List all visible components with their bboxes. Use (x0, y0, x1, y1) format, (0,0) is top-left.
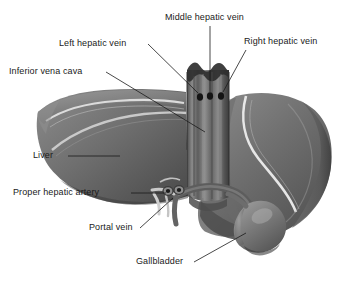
label-middle-hepatic-vein: Middle hepatic vein (165, 12, 244, 23)
label-right-hepatic-vein: Right hepatic vein (244, 36, 317, 47)
label-liver: Liver (33, 150, 53, 161)
middle-hepatic-vein-ostium (207, 92, 213, 100)
label-inferior-vena-cava: Inferior vena cava (9, 66, 82, 77)
label-gallbladder: Gallbladder (136, 256, 183, 267)
right-hepatic-vein-ostium (218, 92, 224, 100)
label-left-hepatic-vein: Left hepatic vein (59, 38, 126, 49)
hepatic-vein-ostia (197, 92, 224, 101)
liver-organ (37, 63, 332, 256)
leader-gallbladder (194, 233, 246, 262)
left-hepatic-vein-ostium (197, 93, 203, 101)
label-portal-vein: Portal vein (89, 222, 133, 233)
label-proper-hepatic-artery: Proper hepatic artery (13, 187, 99, 198)
